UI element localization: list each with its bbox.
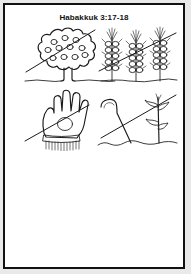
- panel-grain-stalks: [99, 27, 177, 82]
- panel-shepherds-crook: [98, 94, 177, 145]
- fig-fruit: [45, 47, 51, 52]
- grain-stalk: [126, 30, 146, 81]
- fig-fruit: [61, 54, 67, 59]
- crook-cross-out-line: [101, 95, 176, 138]
- blank-writing-area: [5, 155, 183, 265]
- fig-fruit: [50, 55, 56, 60]
- vine-leaf: [158, 123, 168, 129]
- fig-fruit: [62, 35, 68, 40]
- panel-fig-tree: [25, 28, 115, 82]
- page-border-frame: Habakkuk 3:17-18: [3, 3, 185, 269]
- panel-empty-hand: [25, 90, 89, 151]
- page-title: Habakkuk 3:17-18: [5, 13, 183, 22]
- grain-stalk: [150, 27, 170, 81]
- crook-staff-inner: [104, 103, 114, 108]
- vine-leaf: [146, 119, 158, 125]
- worksheet-page: Habakkuk 3:17-18: [0, 0, 191, 274]
- fig-fruit: [72, 54, 78, 59]
- grain-stalk: [102, 28, 122, 81]
- fig-tree-canopy: [38, 28, 95, 70]
- vine-stalk: [158, 97, 159, 143]
- vine-leaf: [158, 102, 169, 110]
- hand-palm-mark: [58, 118, 73, 131]
- fig-fruit: [51, 39, 57, 44]
- crook-ground-line: [98, 141, 177, 146]
- fig-fruit: [79, 45, 85, 50]
- fig-fruit: [82, 52, 88, 57]
- hand-cuff: [43, 135, 80, 143]
- crook-staff: [101, 100, 131, 143]
- fig-fruit: [56, 45, 62, 50]
- illustration-group: [9, 23, 183, 151]
- page-canvas: Habakkuk 3:17-18: [5, 5, 183, 267]
